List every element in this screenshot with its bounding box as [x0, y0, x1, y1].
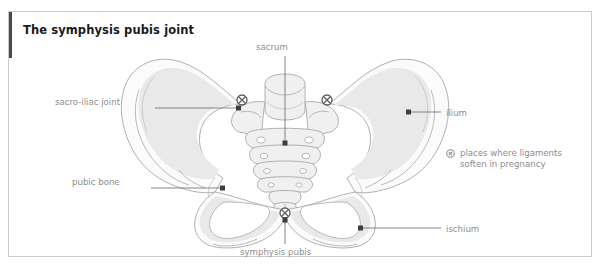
label-pubic-bone: pubic bone: [72, 177, 120, 188]
left-sacro-iliac-ligament-marker: [237, 95, 247, 105]
figure-card: The symphysis pubis joint .bone-outer { …: [8, 11, 592, 257]
right-ilium-bone: [329, 59, 449, 192]
circled-x-icon: [446, 149, 455, 158]
label-symphysis-pubis: symphysis pubis: [240, 247, 311, 258]
left-ilium-bone: [121, 59, 241, 192]
label-ischium: ischium: [446, 224, 479, 235]
right-sacro-iliac-ligament-marker: [322, 95, 332, 105]
label-sacrum: sacrum: [256, 42, 288, 53]
legend-text: places where ligaments soften in pregnan…: [460, 148, 562, 170]
label-sacro-iliac-joint: sacro-iliac joint: [55, 97, 120, 108]
symphysis-pubis-ligament-marker: [280, 208, 290, 218]
label-ilium: ilium: [446, 108, 467, 119]
pelvis-diagram: .bone-outer { fill:#fbfbfb; stroke:#a8a8…: [9, 12, 593, 258]
